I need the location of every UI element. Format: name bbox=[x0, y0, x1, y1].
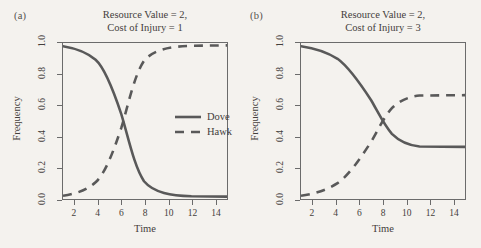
panel-a-title-line1: Resource Value = 2, bbox=[62, 8, 228, 21]
panel-b-ytick-label-3: 0.6 bbox=[275, 90, 285, 118]
panel-a-xtick-label-4: 10 bbox=[159, 208, 179, 218]
panel-b-xtick-0 bbox=[312, 200, 313, 205]
panel-a-xtick-label-2: 6 bbox=[111, 208, 131, 218]
panel-a-xtick-1 bbox=[98, 200, 99, 205]
panel-b-curves bbox=[301, 43, 465, 199]
panel-a-xtick-6 bbox=[216, 200, 217, 205]
legend-label-dove: Dove bbox=[207, 111, 230, 122]
panel-a-xtick-label-6: 14 bbox=[206, 208, 226, 218]
panel-b-xtick-label-1: 4 bbox=[326, 208, 346, 218]
panel-a-ytick-label-0: 0.0 bbox=[37, 185, 47, 213]
panel-a-x-axis-title: Time bbox=[62, 223, 228, 234]
panel-a-xtick-3 bbox=[145, 200, 146, 205]
panel-a-xtick-label-0: 2 bbox=[64, 208, 84, 218]
panel-b-title-line1: Resource Value = 2, bbox=[300, 8, 466, 21]
legend-key-solid-line-icon bbox=[174, 112, 202, 122]
legend-key-dashed-line-icon bbox=[174, 127, 202, 137]
panel-b-letter: (b) bbox=[250, 10, 263, 21]
panel-b-xtick-3 bbox=[383, 200, 384, 205]
panel-b-xtick-label-4: 10 bbox=[397, 208, 417, 218]
panel-b-xtick-label-5: 12 bbox=[420, 208, 440, 218]
panel-b-xtick-label-6: 14 bbox=[444, 208, 464, 218]
panel-a-ytick-label-2: 0.4 bbox=[37, 122, 47, 150]
legend-item-dove: Dove bbox=[174, 109, 232, 124]
panel-a-xtick-4 bbox=[169, 200, 170, 205]
panel-a-ytick-label-1: 0.2 bbox=[37, 153, 47, 181]
legend-label-hawk: Hawk bbox=[207, 126, 232, 137]
panel-a: (a) Resource Value = 2, Cost of Injury =… bbox=[0, 0, 240, 248]
panel-b-xtick-2 bbox=[359, 200, 360, 205]
panel-b-ytick-label-2: 0.4 bbox=[275, 122, 285, 150]
panel-b-y-axis-title: Frequency bbox=[249, 84, 260, 154]
figure: (a) Resource Value = 2, Cost of Injury =… bbox=[0, 0, 481, 248]
panel-a-ytick-label-5: 1.0 bbox=[37, 27, 47, 55]
panel-a-title-line2: Cost of Injury = 1 bbox=[62, 21, 228, 34]
panel-a-xtick-label-1: 4 bbox=[88, 208, 108, 218]
panel-b-title: Resource Value = 2, Cost of Injury = 3 bbox=[300, 8, 466, 34]
panel-a-xtick-label-3: 8 bbox=[135, 208, 155, 218]
panel-b-xtick-6 bbox=[454, 200, 455, 205]
panel-b-xtick-label-2: 6 bbox=[349, 208, 369, 218]
panel-b-xtick-1 bbox=[336, 200, 337, 205]
panel-b-dove-curve bbox=[301, 46, 465, 147]
panel-a-ytick-label-3: 0.6 bbox=[37, 90, 47, 118]
panel-a-title: Resource Value = 2, Cost of Injury = 1 bbox=[62, 8, 228, 34]
panel-a-xtick-5 bbox=[192, 200, 193, 205]
panel-b-ytick-label-1: 0.2 bbox=[275, 153, 285, 181]
panel-b-xtick-5 bbox=[430, 200, 431, 205]
panel-a-xtick-label-5: 12 bbox=[182, 208, 202, 218]
panel-b-xtick-label-0: 2 bbox=[302, 208, 322, 218]
panel-a-ytick-label-4: 0.8 bbox=[37, 59, 47, 87]
panel-b-x-axis-title: Time bbox=[300, 223, 466, 234]
panel-a-letter: (a) bbox=[14, 10, 26, 21]
panel-b-title-line2: Cost of Injury = 3 bbox=[300, 21, 466, 34]
panel-b-ytick-label-4: 0.8 bbox=[275, 59, 285, 87]
legend-item-hawk: Hawk bbox=[174, 124, 232, 139]
panel-b-xtick-label-3: 8 bbox=[373, 208, 393, 218]
panel-b-xtick-4 bbox=[407, 200, 408, 205]
panel-b-ytick-0 bbox=[295, 200, 300, 201]
panel-a-y-axis-title: Frequency bbox=[11, 84, 22, 154]
panel-b: (b) Resource Value = 2, Cost of Injury =… bbox=[240, 0, 481, 248]
panel-a-xtick-0 bbox=[74, 200, 75, 205]
panel-a-ytick-0 bbox=[57, 200, 62, 201]
legend: Dove Hawk bbox=[174, 109, 232, 139]
panel-b-ytick-label-5: 1.0 bbox=[275, 27, 285, 55]
panel-b-plot-area bbox=[300, 42, 466, 200]
panel-b-ytick-label-0: 0.0 bbox=[275, 185, 285, 213]
panel-a-xtick-2 bbox=[121, 200, 122, 205]
